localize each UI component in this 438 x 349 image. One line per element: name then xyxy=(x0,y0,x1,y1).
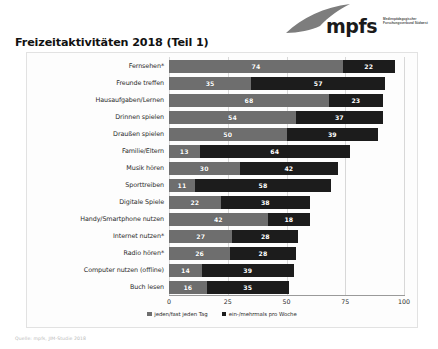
category-label: Fernsehen* xyxy=(129,62,164,70)
bar-value-label: 39 xyxy=(243,267,252,274)
bar-value-label: 28 xyxy=(261,233,270,240)
bar-segment: 22 xyxy=(343,60,395,73)
category-label: Buch lesen xyxy=(130,283,164,291)
bar-value-label: 57 xyxy=(314,80,323,87)
bar-segment: 35 xyxy=(169,77,251,90)
category-label: Digitale Spiele xyxy=(119,198,164,206)
bar-segment: 54 xyxy=(169,111,296,124)
stacked-bar: 5437 xyxy=(169,111,383,124)
x-axis-tick-label: 0 xyxy=(167,298,171,305)
stacked-bar: 4218 xyxy=(169,213,310,226)
legend-item[interactable]: ein-/mehrmals pro Woche xyxy=(222,311,297,317)
logo-subtext: Medienpädagogischer Forschungsverbund Sü… xyxy=(383,17,431,25)
bar-row: Draußen spielen5039 xyxy=(169,125,404,142)
chart-container: Fernsehen*7422Freunde treffen3557Hausauf… xyxy=(26,52,418,328)
bar-segment: 30 xyxy=(169,162,240,175)
stacked-bar: 3042 xyxy=(169,162,338,175)
bar-value-label: 35 xyxy=(206,80,215,87)
stacked-bar: 2728 xyxy=(169,230,298,243)
bar-segment: 22 xyxy=(169,196,221,209)
stacked-bar: 2628 xyxy=(169,247,296,260)
stacked-bar: 6823 xyxy=(169,94,383,107)
x-axis-tick-label: 100 xyxy=(398,298,410,305)
stacked-bar: 1635 xyxy=(169,281,289,294)
legend-swatch-icon xyxy=(222,312,227,317)
category-label: Hausaufgaben/Lernen xyxy=(95,96,164,104)
bar-value-label: 13 xyxy=(180,148,189,155)
bar-row: Hausaufgaben/Lernen6823 xyxy=(169,91,404,108)
x-axis-tick-label: 50 xyxy=(282,298,290,305)
bar-segment: 68 xyxy=(169,94,329,107)
bar-value-label: 35 xyxy=(243,284,252,291)
stacked-bar: 1158 xyxy=(169,179,331,192)
stacked-bar: 2238 xyxy=(169,196,310,209)
bar-value-label: 22 xyxy=(364,63,373,70)
stacked-bar: 5039 xyxy=(169,128,378,141)
bar-row: Sporttreiben1158 xyxy=(169,176,404,193)
legend-label: ein-/mehrmals pro Woche xyxy=(229,311,297,317)
bar-value-label: 11 xyxy=(178,182,187,189)
bar-segment: 39 xyxy=(202,264,294,277)
x-axis-tick-label: 25 xyxy=(224,298,232,305)
bar-value-label: 50 xyxy=(223,131,232,138)
legend-label: jeden/fast jeden Tag xyxy=(154,311,207,317)
bar-row: Internet nutzen*2728 xyxy=(169,227,404,244)
footer-note: Quelle: mpfs, JIM-Studie 2018 xyxy=(15,336,86,341)
stacked-bar: 1364 xyxy=(169,145,350,158)
bar-segment: 16 xyxy=(169,281,207,294)
category-label: Sporttreiben xyxy=(125,181,164,189)
stacked-bar: 7422 xyxy=(169,60,395,73)
bar-row: Digitale Spiele2238 xyxy=(169,193,404,210)
bar-segment: 13 xyxy=(169,145,200,158)
bar-value-label: 16 xyxy=(183,284,192,291)
category-label: Freunde treffen xyxy=(116,79,164,87)
bar-segment: 11 xyxy=(169,179,195,192)
category-label: Computer nutzen (offline) xyxy=(84,266,164,274)
bar-value-label: 28 xyxy=(259,250,268,257)
bar-row: Buch lesen1635 xyxy=(169,278,404,295)
bar-value-label: 42 xyxy=(284,165,293,172)
bar-value-label: 18 xyxy=(284,216,293,223)
bar-segment: 28 xyxy=(232,230,298,243)
bar-value-label: 22 xyxy=(190,199,199,206)
stacked-bar: 3557 xyxy=(169,77,385,90)
category-label: Drinnen spielen xyxy=(115,113,164,121)
bar-value-label: 23 xyxy=(351,97,360,104)
bar-segment: 27 xyxy=(169,230,232,243)
bar-segment: 39 xyxy=(287,128,379,141)
bar-value-label: 38 xyxy=(261,199,270,206)
bar-segment: 26 xyxy=(169,247,230,260)
bar-segment: 57 xyxy=(251,77,385,90)
bar-value-label: 37 xyxy=(335,114,344,121)
bar-row: Handy/Smartphone nutzen4218 xyxy=(169,210,404,227)
bar-row: Familie/Eltern1364 xyxy=(169,142,404,159)
bar-value-label: 27 xyxy=(196,233,205,240)
bar-segment: 18 xyxy=(268,213,310,226)
bar-row: Radio hören*2628 xyxy=(169,244,404,261)
logo-wordmark: mpfs xyxy=(326,17,377,36)
category-label: Familie/Eltern xyxy=(122,147,164,155)
gridline xyxy=(404,57,405,295)
bar-segment: 23 xyxy=(329,94,383,107)
bar-value-label: 39 xyxy=(328,131,337,138)
bar-segment: 42 xyxy=(240,162,339,175)
category-label: Radio hören* xyxy=(124,249,164,257)
bar-row: Computer nutzen (offline)1439 xyxy=(169,261,404,278)
x-axis-tick-label: 75 xyxy=(341,298,349,305)
bar-segment: 28 xyxy=(230,247,296,260)
category-label: Musik hören xyxy=(126,164,164,172)
legend-swatch-icon xyxy=(147,312,152,317)
bar-value-label: 30 xyxy=(200,165,209,172)
bar-value-label: 14 xyxy=(181,267,190,274)
bar-value-label: 64 xyxy=(270,148,279,155)
bar-segment: 74 xyxy=(169,60,343,73)
legend-item[interactable]: jeden/fast jeden Tag xyxy=(147,311,207,317)
category-label: Handy/Smartphone nutzen xyxy=(80,215,164,223)
bar-value-label: 74 xyxy=(252,63,261,70)
plot-area: Fernsehen*7422Freunde treffen3557Hausauf… xyxy=(169,57,404,295)
mpfs-logo: mpfs Medienpädagogischer Forschungsverbu… xyxy=(280,4,432,40)
bar-value-label: 58 xyxy=(259,182,268,189)
bar-segment: 37 xyxy=(296,111,383,124)
category-label: Internet nutzen* xyxy=(113,232,164,240)
bar-segment: 42 xyxy=(169,213,268,226)
